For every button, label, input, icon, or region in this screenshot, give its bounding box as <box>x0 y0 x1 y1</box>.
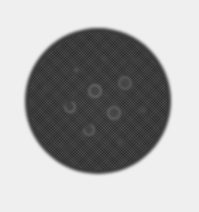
spot-solid <box>100 54 108 62</box>
noise-texture <box>29 32 167 170</box>
spot-solid <box>128 55 138 65</box>
spot-ring <box>118 76 132 90</box>
spot-ring <box>107 106 121 120</box>
spot-ring <box>88 84 102 98</box>
spot-solid <box>57 140 67 150</box>
spot-solid <box>72 66 80 74</box>
spot-solid <box>138 105 148 115</box>
spot-solid <box>115 137 125 147</box>
spot-solid <box>40 85 50 95</box>
